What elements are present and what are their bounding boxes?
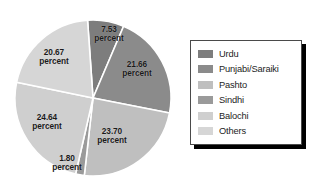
legend-label: Others — [219, 126, 246, 136]
legend-swatch-icon — [198, 96, 213, 104]
slice-unit: percent — [32, 122, 61, 131]
slice-percent-label: 21.66percent — [122, 60, 151, 78]
legend-item[interactable]: Others — [198, 124, 301, 140]
legend-list: UrduPunjabi/SaraikiPashtoSindhiBalochiOt… — [191, 41, 301, 144]
slice-unit: percent — [39, 57, 68, 66]
legend-swatch-icon — [198, 65, 213, 73]
slice-unit: percent — [122, 69, 151, 78]
legend-item[interactable]: Sindhi — [198, 93, 301, 109]
legend-label: Urdu — [219, 49, 239, 59]
slice-unit: percent — [52, 163, 81, 172]
slice-percent-label: 7.53percent — [94, 25, 123, 43]
legend-label: Balochi — [219, 111, 248, 121]
slice-percent-label: 1.80percent — [52, 154, 81, 172]
slice-unit: percent — [97, 136, 126, 145]
slice-percent-label: 24.64percent — [32, 113, 61, 131]
legend-label: Sindhi — [219, 95, 244, 105]
legend-box: UrduPunjabi/SaraikiPashtoSindhiBalochiOt… — [190, 40, 302, 145]
slice-unit: percent — [94, 34, 123, 43]
legend-item[interactable]: Balochi — [198, 108, 301, 124]
legend-swatch-icon — [198, 50, 213, 58]
legend-label: Punjabi/Saraiki — [219, 64, 279, 74]
pie-plot-area: 7.53percent21.66percent23.70percent1.80p… — [0, 0, 190, 192]
legend-swatch-icon — [198, 112, 213, 120]
legend-swatch-icon — [198, 127, 213, 135]
pie-chart-figure: 7.53percent21.66percent23.70percent1.80p… — [0, 0, 315, 192]
slice-percent-label: 23.70percent — [97, 127, 126, 145]
slice-percent-label: 20.67percent — [39, 48, 68, 66]
legend-item[interactable]: Pashto — [198, 77, 301, 93]
legend-item[interactable]: Punjabi/Saraiki — [198, 62, 301, 78]
legend-label: Pashto — [219, 80, 247, 90]
legend-swatch-icon — [198, 81, 213, 89]
legend-item[interactable]: Urdu — [198, 46, 301, 62]
